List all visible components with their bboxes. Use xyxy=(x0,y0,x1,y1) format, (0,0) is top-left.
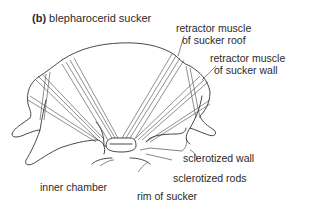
title-text: blepharocerid sucker xyxy=(49,12,151,24)
figure-title: (b) blepharocerid sucker xyxy=(32,12,151,24)
label-rim-of-sucker: rim of sucker xyxy=(137,190,197,202)
muscle-right-inner xyxy=(122,54,184,140)
label-sclerotized-rods: sclerotized rods xyxy=(173,172,247,184)
label-retractor-roof-2: of sucker roof xyxy=(182,34,246,46)
label-inner-chamber: inner chamber xyxy=(40,181,107,193)
label-sclerotized-wall: sclerotized wall xyxy=(183,152,254,164)
label-retractor-wall-2: of sucker wall xyxy=(214,64,278,76)
label-retractor-roof-1: retractor muscle xyxy=(176,22,251,34)
panel-letter: (b) xyxy=(32,12,46,24)
label-retractor-wall-1: retractor muscle xyxy=(210,52,285,64)
